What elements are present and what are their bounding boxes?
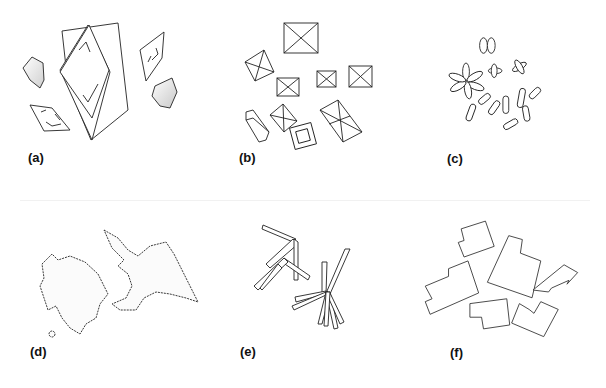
octahedral-crystals-drawing [200, 0, 400, 194]
panel-d: (d) [0, 194, 200, 388]
panel-label-b: (b) [239, 150, 256, 165]
panel-label-f: (f) [450, 345, 463, 360]
panel-b: (b) [200, 0, 400, 194]
panel-label-c: (c) [447, 151, 463, 166]
angular-plates-drawing [400, 194, 600, 388]
panel-a: (a) [0, 0, 200, 194]
panel-c: (c) [400, 0, 600, 194]
panel-label-a: (a) [28, 150, 44, 165]
rod-particles-drawing [400, 0, 600, 194]
panel-label-d: (d) [30, 344, 47, 359]
panel-label-e: (e) [240, 344, 256, 359]
panel-f: (f) [400, 194, 600, 388]
panel-e: (e) [200, 194, 400, 388]
needle-clusters-drawing [200, 194, 400, 388]
